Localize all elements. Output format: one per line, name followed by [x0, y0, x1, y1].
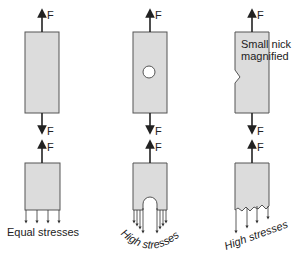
note-magnified: magnified — [241, 50, 289, 62]
note-small-nick: Small nick — [241, 38, 292, 50]
force-label: F — [47, 125, 54, 137]
plain-section — [25, 163, 60, 210]
force-label: F — [155, 125, 162, 137]
force-label: F — [47, 9, 54, 21]
caption-high-stresses-nick: High stresses — [223, 218, 290, 252]
force-label: F — [155, 141, 162, 153]
stress-concentration-diagram: F F F Equal stresses F F F High stresses — [0, 0, 300, 264]
force-label: F — [257, 9, 264, 21]
panel-plain: F F F Equal stresses — [7, 9, 80, 238]
nicked-section — [235, 163, 269, 211]
caption-high-stresses-hole: High stresses — [119, 227, 181, 251]
force-label: F — [257, 125, 264, 137]
panel-hole: F F F High stresses — [119, 9, 181, 251]
plain-bar — [25, 32, 59, 113]
panel-nick: Small nick magnified F F F High stresses — [223, 9, 292, 252]
caption-equal-stresses: Equal stresses — [7, 226, 80, 238]
force-label: F — [155, 9, 162, 21]
force-label: F — [47, 141, 54, 153]
force-label: F — [257, 141, 264, 153]
hole — [143, 66, 155, 78]
holed-section — [133, 163, 167, 210]
